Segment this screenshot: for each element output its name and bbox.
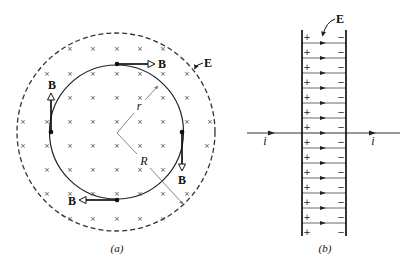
minus-sign-icon: − (337, 212, 345, 222)
current-label-left: i (263, 134, 266, 148)
cross-icon: × (137, 215, 143, 223)
minus-sign-icon: − (337, 77, 345, 87)
cross-icon: × (90, 142, 96, 150)
cross-icon: × (44, 190, 50, 198)
cross-icon: × (114, 118, 120, 126)
plus-sign-icon: + (303, 62, 311, 72)
cross-icon: × (114, 70, 120, 78)
field-arrow-icon (320, 206, 326, 210)
cross-icon: × (20, 142, 26, 150)
minus-sign-icon: − (337, 107, 345, 117)
field-arrow-icon (320, 41, 326, 45)
minus-sign-icon: − (337, 47, 345, 57)
plus-sign-icon: + (303, 137, 311, 147)
e-field-pointer-a: E (195, 56, 213, 70)
cross-icon: × (67, 94, 73, 102)
cross-icon: × (137, 142, 143, 150)
minus-sign-icon: − (337, 62, 345, 72)
cross-icon: × (114, 190, 120, 198)
radius-R-label: R (139, 154, 148, 168)
cross-icon: × (67, 166, 73, 174)
hollow-arrowhead-icon (48, 93, 55, 100)
plus-sign-icon: + (303, 32, 311, 42)
field-arrow-icon (320, 146, 326, 150)
cross-icon: × (90, 94, 96, 102)
b-vector-right: B (178, 130, 186, 187)
plus-sign-icon: + (303, 107, 311, 117)
hollow-arrowhead-icon (179, 164, 186, 171)
hollow-arrowhead-icon (79, 197, 86, 204)
minus-sign-icon: − (337, 92, 345, 102)
cross-icon: × (67, 142, 73, 150)
current-arrow-icon (268, 131, 275, 136)
hollow-arrowhead-icon (148, 61, 155, 68)
cross-icon: × (114, 45, 120, 53)
plus-sign-icon: + (303, 152, 311, 162)
minus-sign-icon: − (337, 167, 345, 177)
cross-icon: × (184, 70, 190, 78)
cross-icon: × (44, 142, 50, 150)
cross-icon: × (90, 166, 96, 174)
plus-sign-icon: + (303, 122, 311, 132)
plus-sign-icon: + (303, 47, 311, 57)
field-arrow-icon (320, 71, 326, 75)
cross-icon: × (44, 70, 50, 78)
cross-icon: × (207, 118, 213, 126)
cross-icon: × (20, 118, 26, 126)
minus-sign-icon: − (337, 227, 345, 237)
cross-icon: × (160, 94, 166, 102)
cross-icon: × (90, 215, 96, 223)
field-arrow-icon (320, 191, 326, 195)
minus-sign-icon: − (337, 137, 345, 147)
cross-icon: × (204, 142, 210, 150)
cross-icon: × (90, 45, 96, 53)
cross-icon: × (114, 166, 120, 174)
plus-sign-icon: + (303, 197, 311, 207)
caption-a: (a) (111, 242, 124, 255)
cross-icon: × (114, 215, 120, 223)
b-label-right: B (178, 173, 186, 187)
field-arrow-icon (320, 101, 326, 105)
minus-sign-icon: − (337, 122, 345, 132)
capacitor-plate-charges: +−+−+−+−+−+−+−+−+−+−+−+−+−+− (303, 32, 345, 237)
cross-icon: × (114, 142, 120, 150)
b-label-top: B (158, 57, 166, 71)
cross-icon: × (67, 70, 73, 78)
cross-icon: × (160, 118, 166, 126)
cross-icon: × (184, 94, 190, 102)
field-arrow-icon (320, 116, 326, 120)
cross-icon: × (160, 166, 166, 174)
cross-icon: × (160, 190, 166, 198)
plus-sign-icon: + (303, 212, 311, 222)
panel-b: i i +−+−+−+−+−+−+−+−+−+−+−+−+−+− E (b) (247, 12, 400, 255)
cross-icon: × (67, 45, 73, 53)
plus-sign-icon: + (303, 77, 311, 87)
plus-sign-icon: + (303, 92, 311, 102)
current-label-right: i (371, 134, 374, 148)
integration-loop-circle (50, 65, 184, 199)
plus-sign-icon: + (303, 167, 311, 177)
cross-icon: × (44, 166, 50, 174)
cross-icon: × (184, 118, 190, 126)
b-label-bottom: B (68, 194, 76, 208)
e-label-b: E (336, 12, 344, 26)
field-arrow-icon (320, 221, 326, 225)
cross-icon: × (90, 118, 96, 126)
minus-sign-icon: − (337, 152, 345, 162)
cross-icon: × (160, 142, 166, 150)
minus-sign-icon: − (337, 32, 345, 42)
field-arrow-icon (320, 176, 326, 180)
cross-icon: × (44, 118, 50, 126)
field-arrow-icon (320, 56, 326, 60)
panel-a: ××××××××××××××××××××××××××××××××××××××××… (17, 33, 215, 255)
plus-sign-icon: + (303, 182, 311, 192)
cross-icon: × (114, 94, 120, 102)
cross-icon: × (137, 118, 143, 126)
b-label-left: B (48, 78, 56, 92)
e-label-a: E (204, 56, 212, 70)
cross-icon: × (67, 118, 73, 126)
plus-sign-icon: + (303, 227, 311, 237)
field-arrow-icon (320, 161, 326, 165)
radius-r-label: r (137, 99, 142, 113)
diagram-canvas: ××××××××××××××××××××××××××××××××××××××××… (0, 0, 413, 271)
